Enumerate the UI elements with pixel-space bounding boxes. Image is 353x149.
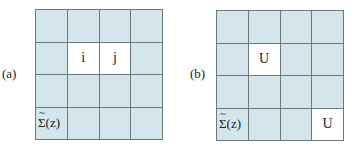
cell-a-0-0 [36,10,67,42]
cell-b-0-0 [217,11,248,43]
cell-a-i: i [68,43,99,75]
tilde-mark: ~ [39,106,45,118]
cell-a-1-3 [131,43,162,75]
cell-b-0-2 [281,11,312,43]
cell-a-sigma: ~Σ(z) [36,108,67,140]
sigma-label: ~Σ(z) [38,115,60,131]
cell-b-2-0 [217,76,248,108]
cell-b-1-2 [281,44,312,76]
cell-b-2-3 [312,76,343,108]
cell-b-2-1 [249,76,280,108]
cell-b-sigma: ~Σ(z) [217,109,248,141]
cell-b-1-3 [312,44,343,76]
cell-a-2-3 [131,75,162,107]
index-i-label: i [81,50,85,66]
cell-a-1-0 [36,43,67,75]
cell-b-0-3 [312,11,343,43]
cell-a-3-1 [68,108,99,140]
cell-b-0-1 [249,11,280,43]
cell-b-u2: U [312,109,343,141]
cell-a-2-2 [100,75,131,107]
cell-a-2-1 [68,75,99,107]
cell-b-u1: U [249,44,280,76]
cell-b-2-2 [281,76,312,108]
panel-a-grid: i j ~Σ(z) [35,9,163,140]
cell-a-0-3 [131,10,162,42]
u-label-1: U [259,51,269,67]
cell-a-j: j [100,43,131,75]
u-label-2: U [323,116,333,132]
cell-a-0-1 [68,10,99,42]
cell-b-3-1 [249,109,280,141]
cell-a-0-2 [100,10,131,42]
sigma-label: ~Σ(z) [219,116,241,132]
cell-a-3-2 [100,108,131,140]
panel-a-label: (a) [2,67,16,81]
cell-b-1-0 [217,44,248,76]
tilde-mark: ~ [220,107,226,119]
panel-b-label: (b) [190,67,205,81]
cell-b-3-2 [281,109,312,141]
cell-a-3-3 [131,108,162,140]
index-j-label: j [113,50,117,66]
panel-b-grid: U ~Σ(z) U [216,10,344,141]
cell-a-2-0 [36,75,67,107]
